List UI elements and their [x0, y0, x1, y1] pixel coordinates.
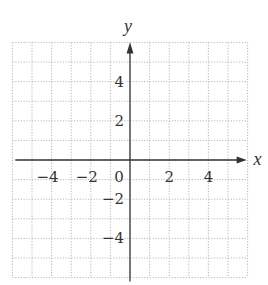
x-tick-label: 4 [204, 168, 214, 186]
y-tick-label: 2 [114, 112, 124, 130]
y-tick-label: −2 [102, 190, 124, 208]
x-tick-label: −4 [37, 168, 59, 186]
y-axis-label: y [122, 16, 132, 36]
x-tick-label: 2 [164, 168, 174, 186]
x-tick-label: 0 [114, 168, 124, 186]
y-tick-label: −4 [102, 229, 124, 247]
y-axis-arrow-icon [127, 42, 134, 53]
coordinate-plane: −4−202442−2−4 x y [0, 0, 268, 285]
x-axis-label: x [253, 149, 262, 169]
axes [15, 42, 246, 281]
x-axis-arrow-icon [237, 157, 247, 164]
x-tick-label: −2 [76, 168, 98, 186]
y-tick-label: 4 [114, 73, 124, 91]
